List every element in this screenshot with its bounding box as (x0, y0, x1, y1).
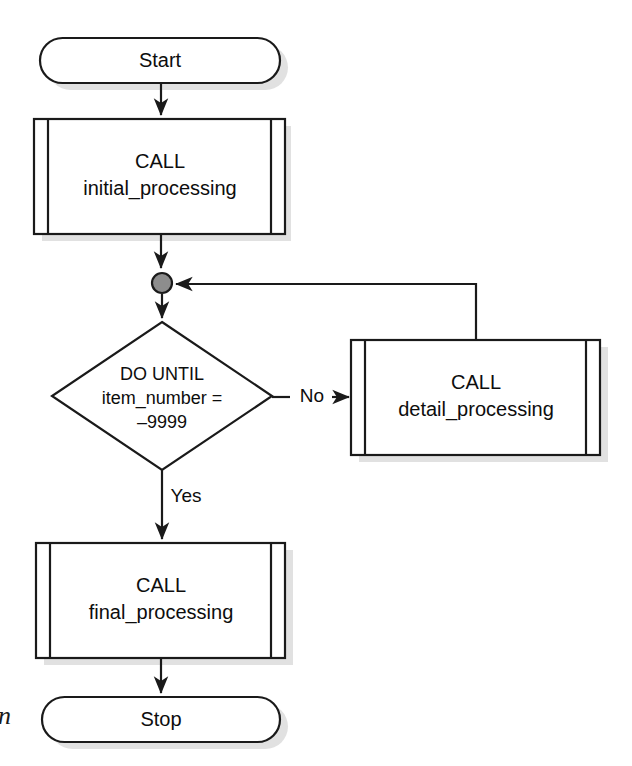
margin-partial-glyph: n (0, 701, 11, 730)
node-start[interactable]: Start (40, 38, 280, 83)
node-decision-line3: –9999 (137, 412, 187, 432)
flowchart-svg: Start CALL initial_processing DO UNTIL i… (0, 0, 632, 766)
node-decision-line1: DO UNTIL (120, 364, 204, 384)
node-decision[interactable]: DO UNTIL item_number = –9999 (52, 322, 272, 470)
node-stop-label: Stop (140, 708, 181, 730)
node-initial-processing-line1: CALL (135, 150, 185, 172)
node-initial-processing-line2: initial_processing (83, 177, 236, 200)
edge-label-no: No (300, 385, 324, 406)
edge-detail-loop-back (176, 284, 476, 340)
node-stop[interactable]: Stop (42, 697, 280, 742)
junction-dot (152, 273, 172, 293)
node-detail-processing-line2: detail_processing (398, 398, 554, 421)
flowchart-canvas: Start CALL initial_processing DO UNTIL i… (0, 0, 632, 766)
node-final-processing[interactable]: CALL final_processing (36, 543, 285, 658)
node-detail-processing-line1: CALL (451, 371, 501, 393)
node-final-processing-line2: final_processing (89, 601, 234, 624)
node-final-processing-line1: CALL (136, 574, 186, 596)
node-start-label: Start (139, 49, 182, 71)
edge-label-yes: Yes (171, 485, 202, 506)
node-decision-line2: item_number = (102, 388, 223, 409)
node-initial-processing[interactable]: CALL initial_processing (34, 119, 285, 234)
node-detail-processing[interactable]: CALL detail_processing (351, 340, 600, 455)
